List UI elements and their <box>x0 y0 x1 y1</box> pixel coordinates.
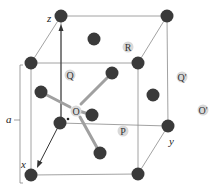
site-label-r: R <box>125 42 132 53</box>
atom-corner <box>54 117 67 130</box>
z-axis-label: z <box>46 12 52 24</box>
site-label-q-prime: Q' <box>177 72 186 83</box>
atom-face-top <box>88 33 101 46</box>
site-label-p: P <box>120 126 126 137</box>
atom-corner <box>25 169 38 182</box>
atom-face-front <box>86 109 99 122</box>
site-label-q: Q <box>66 70 74 81</box>
atom-face-bottom <box>94 147 107 160</box>
origin-dot <box>67 118 70 121</box>
y-axis-label: y <box>168 135 174 147</box>
atom-face-right <box>147 89 160 102</box>
atom-corner <box>132 57 145 70</box>
site-markers <box>65 42 209 137</box>
atom-face-back <box>106 67 119 80</box>
site-label-o: O <box>72 106 79 117</box>
site-label-o-prime: O' <box>198 105 207 116</box>
atom-corner <box>162 120 175 133</box>
atom-corner <box>161 10 174 23</box>
atom-corner <box>55 10 68 23</box>
x-axis-label: x <box>20 158 26 170</box>
atom-corner <box>132 168 145 181</box>
unit-cell-diagram: a z x y <box>0 0 219 190</box>
lattice-constant-label: a <box>6 113 12 125</box>
face-atoms <box>35 33 160 160</box>
atom-face-left <box>35 86 48 99</box>
x-axis-arrow <box>37 127 58 168</box>
atom-corner <box>25 57 38 70</box>
